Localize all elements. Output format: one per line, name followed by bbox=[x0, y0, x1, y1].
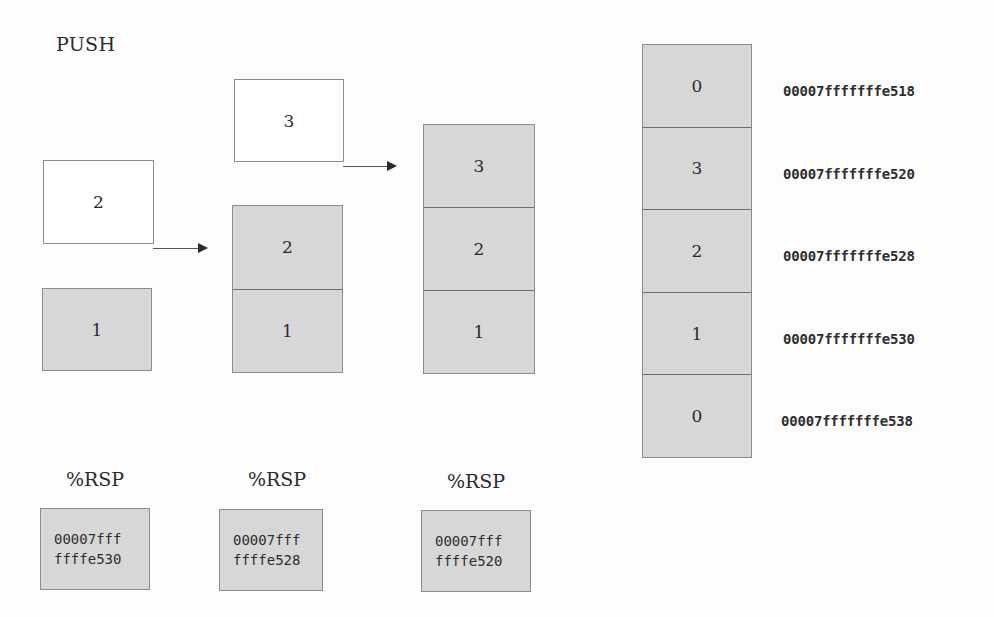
memory-address: 00007fffffffe518 bbox=[783, 83, 915, 99]
rsp-value-line1: 00007fff bbox=[54, 529, 149, 549]
memory-value: 1 bbox=[692, 324, 703, 344]
memory-address: 00007fffffffe538 bbox=[781, 413, 913, 429]
memory-address: 00007fffffffe528 bbox=[783, 248, 915, 264]
rsp-register-box: 00007fff ffffe530 bbox=[40, 508, 150, 590]
stack-slot: 2 bbox=[233, 206, 342, 289]
memory-address: 00007fffffffe530 bbox=[783, 331, 915, 347]
arrow-line bbox=[343, 166, 387, 167]
incoming-value-box: 3 bbox=[234, 79, 344, 162]
diagram-title: PUSH bbox=[56, 33, 115, 55]
rsp-label: %RSP bbox=[421, 470, 531, 492]
push-arrow bbox=[343, 161, 397, 171]
stack-slot: 1 bbox=[42, 288, 152, 371]
stack-step-2: 2 1 bbox=[232, 205, 343, 373]
memory-cell: 3 bbox=[643, 127, 751, 210]
rsp-value-line1: 00007fff bbox=[435, 531, 530, 551]
incoming-value: 2 bbox=[93, 192, 104, 212]
memory-address: 00007fffffffe520 bbox=[783, 166, 915, 182]
memory-value: 2 bbox=[692, 241, 703, 261]
rsp-value-line2: ffffe520 bbox=[435, 551, 530, 571]
stack-slot: 1 bbox=[424, 290, 534, 373]
memory-value: 3 bbox=[692, 158, 703, 178]
memory-value: 0 bbox=[692, 406, 703, 426]
stack-value: 1 bbox=[92, 320, 103, 340]
rsp-register-box: 00007fff ffffe528 bbox=[219, 509, 323, 591]
stack-value: 2 bbox=[282, 237, 293, 257]
rsp-value-line2: ffffe530 bbox=[54, 549, 149, 569]
memory-cell: 1 bbox=[643, 292, 751, 375]
rsp-value-line1: 00007fff bbox=[233, 530, 322, 550]
arrow-head-icon bbox=[387, 161, 397, 171]
push-arrow bbox=[153, 243, 208, 253]
stack-slot: 2 bbox=[424, 207, 534, 290]
rsp-register-box: 00007fff ffffe520 bbox=[421, 510, 531, 592]
stack-value: 2 bbox=[474, 239, 485, 259]
arrow-line bbox=[153, 248, 198, 249]
arrow-head-icon bbox=[198, 243, 208, 253]
stack-slot: 1 bbox=[233, 289, 342, 373]
incoming-value-box: 2 bbox=[43, 160, 154, 244]
rsp-label: %RSP bbox=[222, 468, 332, 490]
stack-value: 3 bbox=[474, 156, 485, 176]
stack-value: 1 bbox=[474, 322, 485, 342]
memory-stack: 0 3 2 1 0 bbox=[642, 44, 752, 458]
memory-cell: 0 bbox=[643, 45, 751, 127]
rsp-value-line2: ffffe528 bbox=[233, 550, 322, 570]
incoming-value: 3 bbox=[284, 111, 295, 131]
stack-step-3: 3 2 1 bbox=[423, 124, 535, 374]
memory-cell: 0 bbox=[643, 374, 751, 457]
stack-value: 1 bbox=[282, 321, 293, 341]
stack-slot: 3 bbox=[424, 125, 534, 207]
rsp-label: %RSP bbox=[40, 468, 150, 490]
memory-value: 0 bbox=[692, 76, 703, 96]
memory-cell: 2 bbox=[643, 209, 751, 292]
